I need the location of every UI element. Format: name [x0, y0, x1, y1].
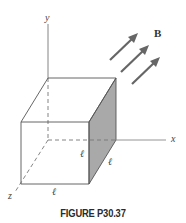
field-label-b: B: [154, 27, 161, 39]
edge-label-vertical: ℓ: [80, 148, 84, 159]
magnetic-field-arrows: [110, 33, 160, 84]
edge-label-depth: ℓ: [108, 156, 112, 167]
x-axis-label: x: [171, 133, 175, 144]
front-face: [21, 122, 89, 184]
figure-caption: FIGURE P30.37: [14, 207, 172, 219]
z-axis-label: z: [8, 190, 12, 201]
y-axis-label: y: [45, 12, 49, 23]
edge-label-bottom: ℓ: [52, 186, 56, 197]
shaded-face: [89, 78, 116, 184]
